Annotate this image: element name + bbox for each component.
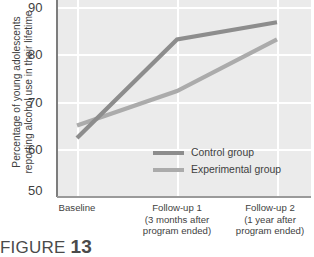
legend-label-experimental-group: Experimental group: [191, 164, 281, 176]
x-label-baseline-line1: Baseline: [36, 202, 118, 214]
figure-caption-number: 13: [70, 236, 92, 257]
x-label-followup-2-line1: Follow-up 2: [226, 202, 314, 214]
x-label-followup-2: Follow-up 2 (1 year after program ended): [226, 202, 314, 237]
figure-caption: FIGURE 13: [0, 236, 92, 257]
y-axis-line: [56, 0, 58, 197]
legend-swatch-experimental-group: [153, 168, 184, 173]
legend-swatch-control-group: [153, 151, 184, 156]
legend-label-control-group: Control group: [191, 147, 254, 159]
legend-item-experimental-group: Experimental group: [153, 163, 281, 177]
y-axis-title-line1: Percentage of young adolescents: [11, 16, 24, 167]
y-tick-label-70: 70: [28, 96, 55, 110]
x-label-followup-1-line3: program ended): [127, 225, 227, 237]
x-axis-line: [57, 196, 311, 198]
y-tick-label-90: 90: [28, 1, 55, 15]
x-label-followup-1-line1: Follow-up 1: [127, 202, 227, 214]
figure-caption-word: FIGURE: [0, 238, 65, 257]
x-label-followup-2-line3: program ended): [226, 225, 314, 237]
chart-legend: Control group Experimental group: [153, 146, 281, 177]
y-tick-label-80: 80: [28, 48, 55, 62]
y-tick-label-50: 50: [28, 184, 55, 198]
y-axis-tick-labels: 90 80 70 60 50: [28, 0, 55, 197]
line-control-group: [77, 22, 277, 138]
legend-item-control-group: Control group: [153, 146, 281, 160]
x-label-followup-1-line2: (3 months after: [127, 214, 227, 226]
x-label-followup-1: Follow-up 1 (3 months after program ende…: [127, 202, 227, 237]
x-label-baseline: Baseline: [36, 202, 118, 214]
line-experimental-group: [77, 39, 277, 125]
x-label-followup-2-line2: (1 year after: [226, 214, 314, 226]
y-tick-label-60: 60: [28, 143, 55, 157]
